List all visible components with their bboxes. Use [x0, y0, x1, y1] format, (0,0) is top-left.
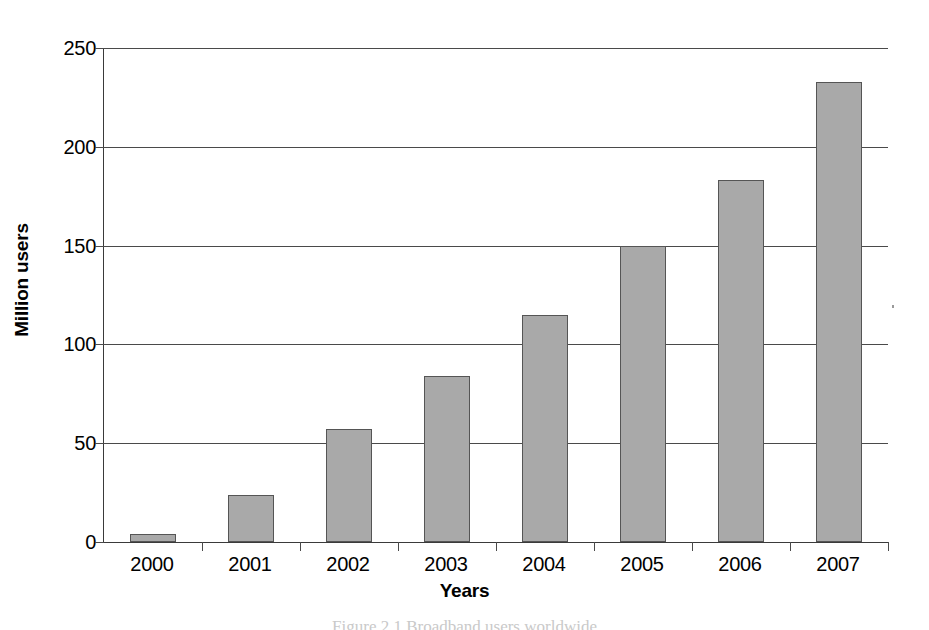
bar	[326, 429, 372, 542]
y-tick-label: 50	[40, 433, 96, 453]
y-tick-label: 0	[40, 532, 96, 552]
y-tick-label: 250	[40, 38, 96, 58]
y-tick-label: 200	[40, 137, 96, 157]
x-tick-label: 2004	[495, 552, 593, 576]
x-tick-mark	[300, 542, 301, 551]
bar	[718, 180, 764, 542]
x-tick-label: 2001	[201, 552, 299, 576]
y-tick-mark	[95, 246, 104, 247]
scan-speck	[892, 305, 894, 308]
y-tick-mark	[95, 542, 104, 543]
bar-chart-figure: Million users 050100150200250 2000200120…	[0, 0, 929, 630]
y-axis-title: Million users	[0, 0, 44, 560]
gridline	[104, 344, 888, 345]
y-tick-mark	[95, 48, 104, 49]
bar	[522, 315, 568, 542]
x-axis-title: Years	[0, 580, 929, 602]
bar	[424, 376, 470, 542]
x-tick-label: 2006	[691, 552, 789, 576]
y-axis-tick-labels: 050100150200250	[40, 0, 96, 630]
x-tick-mark	[790, 542, 791, 551]
gridline	[104, 147, 888, 148]
x-tick-label: 2000	[103, 552, 201, 576]
x-tick-label: 2002	[299, 552, 397, 576]
bar	[130, 534, 176, 542]
gridline	[104, 443, 888, 444]
x-tick-mark	[398, 542, 399, 551]
x-tick-label: 2003	[397, 552, 495, 576]
gridline	[104, 48, 888, 49]
x-tick-mark	[496, 542, 497, 551]
bar	[620, 246, 666, 542]
y-tick-label: 150	[40, 236, 96, 256]
y-tick-mark	[95, 443, 104, 444]
x-tick-label: 2007	[789, 552, 887, 576]
bar	[816, 82, 862, 542]
y-tick-mark	[95, 344, 104, 345]
x-tick-mark	[594, 542, 595, 551]
x-axis-tick-labels: 20002001200220032004200520062007	[103, 552, 887, 582]
plot-area	[103, 48, 888, 543]
y-tick-mark	[95, 147, 104, 148]
x-tick-label: 2005	[593, 552, 691, 576]
y-tick-label: 100	[40, 334, 96, 354]
x-tick-mark	[888, 542, 889, 551]
x-tick-mark	[692, 542, 693, 551]
figure-caption: Figure 2.1 Broadband users worldwide	[0, 618, 929, 630]
y-axis-title-text: Million users	[11, 223, 33, 337]
gridline	[104, 246, 888, 247]
x-tick-mark	[202, 542, 203, 551]
bar	[228, 495, 274, 542]
